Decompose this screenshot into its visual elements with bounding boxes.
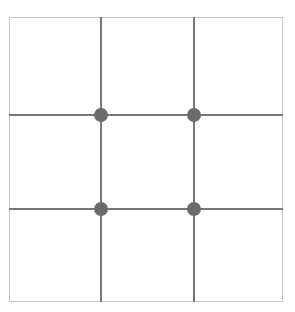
intersection-point-top-left (94, 108, 108, 122)
grid-frame (9, 17, 283, 302)
intersection-point-bottom-left (94, 202, 108, 216)
vertical-third-line-2 (193, 17, 195, 302)
horizontal-third-line-1 (9, 114, 283, 116)
horizontal-third-line-2 (9, 208, 283, 210)
intersection-point-bottom-right (187, 202, 201, 216)
intersection-point-top-right (187, 108, 201, 122)
vertical-third-line-1 (100, 17, 102, 302)
